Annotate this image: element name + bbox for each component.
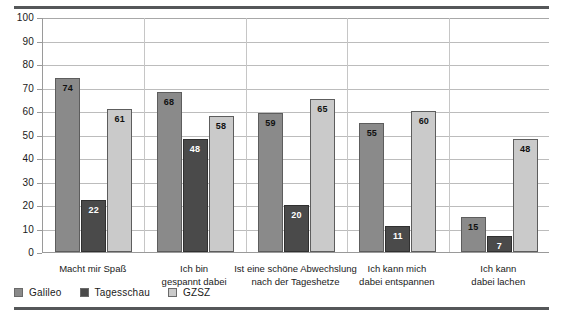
category-label-line: Ich kann xyxy=(434,262,563,275)
y-tick-label: 100 xyxy=(0,13,34,23)
chart-page: 74226168485859206555116015748 0102030405… xyxy=(0,0,563,313)
y-tick-label: 60 xyxy=(0,107,34,117)
legend-label: Galileo xyxy=(29,287,62,298)
bar-value-label: 61 xyxy=(108,114,131,124)
chart-legend: GalileoTagesschauGZSZ xyxy=(14,287,210,298)
bar-gzsz: 60 xyxy=(411,111,436,252)
y-tick-label: 30 xyxy=(0,178,34,188)
y-tick-mark xyxy=(37,230,42,231)
y-tick-mark xyxy=(37,183,42,184)
bar-gzsz: 58 xyxy=(209,116,234,252)
legend-item-galileo[interactable]: Galileo xyxy=(14,287,62,298)
y-tick-mark xyxy=(37,18,42,19)
bar-tagesschau: 7 xyxy=(487,236,512,252)
legend-swatch-icon xyxy=(168,288,177,297)
y-tick-mark xyxy=(37,206,42,207)
legend-label: GZSZ xyxy=(183,287,210,298)
bar-galileo: 15 xyxy=(461,217,486,252)
bar-value-label: 55 xyxy=(360,128,383,138)
bar-tagesschau: 22 xyxy=(81,200,106,252)
legend-swatch-icon xyxy=(14,288,23,297)
y-tick-label: 70 xyxy=(0,84,34,94)
bar-value-label: 7 xyxy=(488,241,511,251)
y-tick-mark xyxy=(37,112,42,113)
bar-tagesschau: 11 xyxy=(385,226,410,252)
bar-group: 551160 xyxy=(347,18,448,252)
y-tick-label: 80 xyxy=(0,60,34,70)
bar-value-label: 15 xyxy=(462,222,485,232)
y-tick-label: 90 xyxy=(0,37,34,47)
bar-value-label: 60 xyxy=(412,116,435,126)
bar-tagesschau: 48 xyxy=(183,139,208,252)
bar-gzsz: 65 xyxy=(310,99,335,252)
category-label: Ich kanndabei lachen xyxy=(434,262,563,288)
y-tick-label: 0 xyxy=(0,248,34,258)
legend-item-tagesschau[interactable]: Tagesschau xyxy=(80,287,150,298)
bar-value-label: 22 xyxy=(82,205,105,215)
legend-swatch-icon xyxy=(80,288,89,297)
legend-label: Tagesschau xyxy=(95,287,150,298)
bar-galileo: 74 xyxy=(55,78,80,252)
bar-value-label: 65 xyxy=(311,104,334,114)
y-tick-mark xyxy=(37,136,42,137)
bar-value-label: 48 xyxy=(184,144,207,154)
top-divider-rule xyxy=(14,6,549,9)
y-tick-mark xyxy=(37,89,42,90)
bar-value-label: 58 xyxy=(210,121,233,131)
bar-value-label: 68 xyxy=(158,97,181,107)
y-tick-mark xyxy=(37,253,42,254)
bar-galileo: 68 xyxy=(157,92,182,252)
bar-group: 592065 xyxy=(246,18,347,252)
bar-chart: 74226168485859206555116015748 0102030405… xyxy=(0,10,563,260)
bar-value-label: 20 xyxy=(285,210,308,220)
y-tick-label: 40 xyxy=(0,154,34,164)
bar-value-label: 48 xyxy=(514,144,537,154)
bar-group: 742261 xyxy=(43,18,144,252)
bar-group: 15748 xyxy=(449,18,550,252)
bar-value-label: 59 xyxy=(259,118,282,128)
y-tick-label: 50 xyxy=(0,131,34,141)
bar-group: 684858 xyxy=(144,18,245,252)
bar-galileo: 59 xyxy=(258,113,283,252)
y-tick-label: 10 xyxy=(0,225,34,235)
bar-value-label: 74 xyxy=(56,83,79,93)
bar-gzsz: 48 xyxy=(513,139,538,252)
plot-area: 74226168485859206555116015748 xyxy=(42,18,549,253)
y-tick-mark xyxy=(37,65,42,66)
bar-value-label: 11 xyxy=(386,231,409,241)
category-label-line: dabei lachen xyxy=(434,275,563,288)
y-tick-label: 20 xyxy=(0,201,34,211)
bottom-divider-rule xyxy=(14,307,549,310)
bar-tagesschau: 20 xyxy=(284,205,309,252)
y-tick-mark xyxy=(37,42,42,43)
bar-galileo: 55 xyxy=(359,123,384,252)
bar-gzsz: 61 xyxy=(107,109,132,252)
legend-item-gzsz[interactable]: GZSZ xyxy=(168,287,210,298)
y-tick-mark xyxy=(37,159,42,160)
